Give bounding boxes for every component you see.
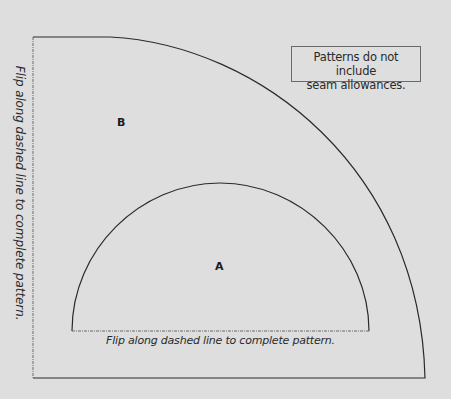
piece-a-label: A: [215, 260, 224, 273]
vertical-fold-instruction: Flip along dashed line to complete patte…: [13, 66, 27, 321]
note-line-1: Patterns do not include: [292, 50, 420, 78]
note-line-2: seam allowances.: [292, 78, 420, 92]
piece-a-outline: [72, 183, 369, 331]
horizontal-fold-instruction: Flip along dashed line to complete patte…: [72, 334, 369, 347]
piece-b-label: B: [117, 116, 125, 129]
seam-allowance-note: Patterns do not include seam allowances.: [291, 46, 421, 82]
